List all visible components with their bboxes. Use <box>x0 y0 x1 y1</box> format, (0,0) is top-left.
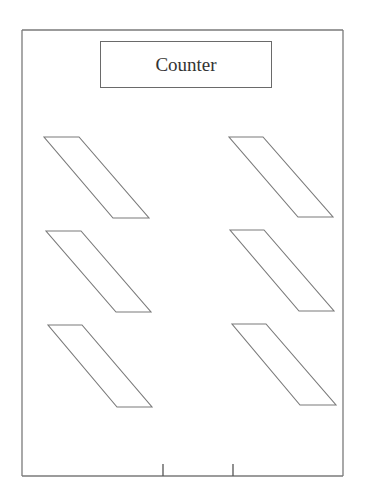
outer-frame <box>22 30 343 476</box>
parallelogram-right-top <box>229 137 333 217</box>
counter-title: Counter <box>155 54 216 76</box>
parallelogram-left-middle <box>46 231 151 312</box>
bottom-ticks <box>163 464 233 476</box>
parallelogram-left-top <box>44 137 149 218</box>
parallelogram-group <box>44 137 336 407</box>
parallelogram-right-middle <box>230 230 334 311</box>
counter-label-box: Counter <box>100 41 272 88</box>
parallelogram-left-bottom <box>48 325 152 407</box>
parallelogram-right-bottom <box>232 324 336 405</box>
